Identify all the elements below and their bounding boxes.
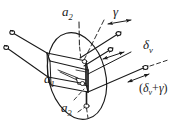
diagram-canvas [0,0,192,129]
label-axis-a3: a3 [61,101,72,117]
label-leader-lines [58,70,84,100]
label-axis-a2: a2 [62,5,73,21]
label-angle-gamma: γ [113,5,118,18]
angle-marker-gamma [108,20,131,24]
axis-a2-line [79,22,81,60]
left-vector-group [4,30,48,77]
label-angle-delta-v: δv [143,38,153,54]
technical-diagram-figure: a2 γ δv (δv+γ) a1 a3 [0,0,192,129]
angle-marker-delta-v [103,52,124,59]
label-axis-a1: a1 [44,72,55,88]
label-angle-delta-plus-gamma: (δv+γ) [139,82,168,97]
